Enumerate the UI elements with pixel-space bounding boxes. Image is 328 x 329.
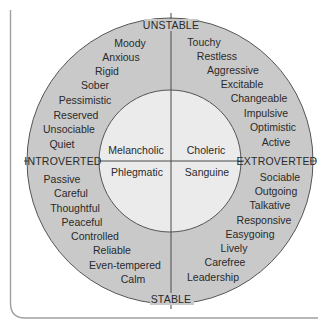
trait-item: Impulsive xyxy=(244,107,289,119)
axis-label-unstable: UNSTABLE xyxy=(143,19,199,31)
trait-item: Lively xyxy=(221,242,249,254)
trait-item: Moody xyxy=(114,37,146,49)
trait-item: Restless xyxy=(197,50,237,62)
trait-item: Quiet xyxy=(49,138,74,150)
trait-item: Anxious xyxy=(102,51,139,63)
trait-item: Easygoing xyxy=(225,228,274,240)
trait-item: Careful xyxy=(54,187,88,199)
trait-item: Aggressive xyxy=(207,64,259,76)
trait-item: Reliable xyxy=(93,244,131,256)
trait-item: Optimistic xyxy=(250,121,296,133)
trait-item: Passive xyxy=(44,173,81,185)
axis-label-stable: STABLE xyxy=(151,293,192,305)
trait-item: Sober xyxy=(81,79,110,91)
axis-label-introverted: INTROVERTED xyxy=(24,155,101,167)
temperament-sanguine: Sanguine xyxy=(185,166,230,178)
personality-diagram: UNSTABLE STABLE INTROVERTED EXTROVERTED … xyxy=(0,0,328,329)
trait-item: Responsive xyxy=(237,214,292,226)
trait-item: Changeable xyxy=(231,92,288,104)
temperament-phlegmatic: Phlegmatic xyxy=(111,166,163,178)
trait-item: Outgoing xyxy=(255,185,298,197)
trait-item: Reserved xyxy=(54,109,99,121)
trait-item: Active xyxy=(262,136,291,148)
temperament-melancholic: Melancholic xyxy=(108,144,163,156)
trait-item: Leadership xyxy=(187,271,239,283)
trait-item: Rigid xyxy=(95,65,119,77)
trait-item: Unsociable xyxy=(43,123,95,135)
trait-item: Excitable xyxy=(221,78,264,90)
trait-item: Controlled xyxy=(71,230,119,242)
trait-item: Thoughtful xyxy=(50,202,100,214)
trait-item: Even-tempered xyxy=(89,259,161,271)
axis-label-extroverted: EXTROVERTED xyxy=(237,155,318,167)
trait-item: Pessimistic xyxy=(59,94,112,106)
trait-item: Calm xyxy=(121,273,146,285)
trait-item: Touchy xyxy=(187,36,221,48)
trait-item: Talkative xyxy=(250,199,291,211)
trait-item: Peaceful xyxy=(62,216,103,228)
trait-item: Sociable xyxy=(260,171,300,183)
trait-item: Carefree xyxy=(205,256,246,268)
temperament-choleric: Choleric xyxy=(187,144,226,156)
